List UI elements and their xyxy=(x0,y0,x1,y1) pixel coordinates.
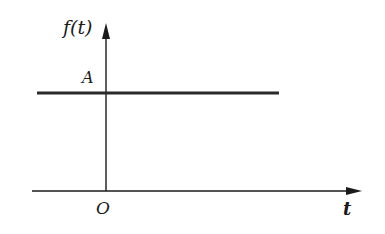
y-axis-label: f(t) xyxy=(61,16,93,38)
f-axis xyxy=(102,23,110,191)
x-axis-label: t xyxy=(343,198,352,219)
level-label: A xyxy=(80,68,94,87)
origin-label: O xyxy=(96,198,110,218)
f-axis-arrow-icon xyxy=(102,23,110,39)
t-axis-arrow-icon xyxy=(346,187,362,195)
signal-diagram: f(t) A O t xyxy=(0,0,385,234)
t-axis xyxy=(32,187,362,195)
